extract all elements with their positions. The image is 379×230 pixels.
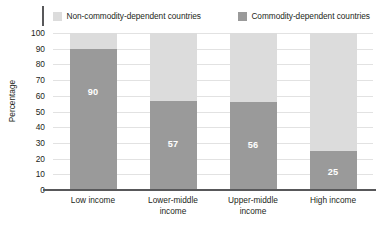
y-axis-tick-label: 30	[36, 138, 45, 148]
bar-group[interactable]: 56	[230, 33, 277, 190]
y-axis-tick-labels: 1009080706050403020100	[0, 33, 49, 190]
bar-segment-commodity-dependent[interactable]: 56	[230, 102, 277, 190]
dark-gray-swatch-icon	[238, 12, 247, 21]
bar-segment-non-commodity-dependent[interactable]	[150, 33, 197, 101]
bar-segment-non-commodity-dependent[interactable]	[230, 33, 277, 102]
y-axis-tick-label: 40	[36, 122, 45, 132]
bar-value-label: 90	[70, 87, 117, 97]
light-gray-swatch-icon	[53, 12, 62, 21]
bar-value-label: 25	[310, 167, 357, 177]
bar-segment-commodity-dependent[interactable]: 25	[310, 151, 357, 190]
bar-value-label: 56	[230, 140, 277, 150]
legend-item-label: Commodity-dependent countries	[251, 11, 369, 21]
y-axis-tick-label: 70	[36, 75, 45, 85]
y-axis-tick-label: 80	[36, 59, 45, 69]
legend-item-commodity-dependent[interactable]: Commodity-dependent countries	[238, 11, 370, 21]
x-axis-baseline	[43, 189, 376, 191]
bar-segment-commodity-dependent[interactable]: 90	[70, 49, 117, 190]
stacked-bar-chart: Non-commodity-dependent countries Commod…	[0, 0, 379, 230]
y-axis-tick-label: 50	[36, 107, 45, 117]
x-axis-tick-label: Lower-middle income	[133, 195, 213, 216]
bar-series-container: 90575625	[53, 33, 373, 190]
chart-legend: Non-commodity-dependent countries Commod…	[42, 6, 370, 26]
bar-group[interactable]: 90	[70, 33, 117, 190]
x-axis-tick-label: High income	[293, 195, 373, 206]
y-axis-tick-label: 60	[36, 91, 45, 101]
bar-group[interactable]: 25	[310, 33, 357, 190]
y-axis-tick-label: 100	[31, 28, 45, 38]
bar-value-label: 57	[150, 139, 197, 149]
plot-area: 90575625	[53, 33, 373, 190]
bar-segment-non-commodity-dependent[interactable]	[310, 33, 357, 151]
legend-item-label: Non-commodity-dependent countries	[67, 11, 201, 21]
x-axis-tick-label: Low income	[53, 195, 133, 206]
y-axis-tick-label: 90	[36, 44, 45, 54]
y-axis-tick-label: 10	[36, 169, 45, 179]
bar-segment-non-commodity-dependent[interactable]	[70, 33, 117, 49]
legend-item-non-commodity-dependent[interactable]: Non-commodity-dependent countries	[53, 11, 201, 21]
x-axis-tick-labels: Low incomeLower-middle incomeUpper-middl…	[53, 195, 373, 227]
x-axis-tick-label: Upper-middle income	[213, 195, 293, 216]
bar-group[interactable]: 57	[150, 33, 197, 190]
y-axis-tick-label: 20	[36, 154, 45, 164]
bar-segment-commodity-dependent[interactable]: 57	[150, 101, 197, 190]
